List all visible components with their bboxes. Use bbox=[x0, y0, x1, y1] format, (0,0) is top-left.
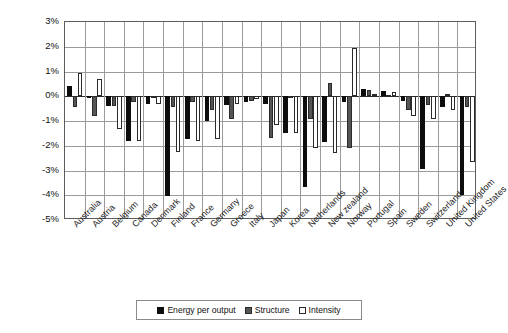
gridline bbox=[65, 47, 475, 48]
gridline-vertical bbox=[320, 22, 321, 218]
bar-i-11 bbox=[294, 96, 299, 133]
legend-label-intensity: Intensity bbox=[309, 305, 341, 315]
y-tick-label: -3% bbox=[19, 164, 59, 175]
bar-i-17 bbox=[411, 96, 416, 116]
bar-e-17 bbox=[401, 96, 406, 100]
bar-e-0 bbox=[67, 86, 72, 96]
bar-i-2 bbox=[117, 96, 122, 129]
bar-e-13 bbox=[322, 96, 327, 142]
bar-i-18 bbox=[431, 96, 436, 118]
legend-swatch-icon-structure bbox=[245, 307, 252, 314]
bar-i-15 bbox=[372, 94, 377, 96]
gridline-vertical bbox=[399, 22, 400, 218]
bar-i-13 bbox=[333, 96, 338, 153]
gridline bbox=[65, 171, 475, 172]
gridline-vertical bbox=[183, 22, 184, 218]
bar-e-15 bbox=[361, 89, 366, 96]
bar-i-20 bbox=[470, 96, 475, 162]
bar-s-20 bbox=[465, 96, 470, 106]
gridline-vertical bbox=[261, 22, 262, 218]
bar-s-0 bbox=[73, 96, 78, 107]
gridline bbox=[65, 195, 475, 196]
bar-e-7 bbox=[205, 96, 210, 121]
bar-s-15 bbox=[367, 90, 372, 96]
bar-s-8 bbox=[229, 96, 234, 118]
gridline-vertical bbox=[85, 22, 86, 218]
bar-e-2 bbox=[106, 96, 111, 106]
bar-i-5 bbox=[176, 96, 181, 152]
bar-e-4 bbox=[146, 96, 151, 103]
y-tick-label: -4% bbox=[19, 188, 59, 199]
bar-s-19 bbox=[445, 94, 450, 96]
bar-e-8 bbox=[224, 96, 229, 105]
gridline-vertical bbox=[124, 22, 125, 218]
bar-e-11 bbox=[283, 96, 288, 133]
gridline-vertical bbox=[143, 22, 144, 218]
gridline-vertical bbox=[202, 22, 203, 218]
y-tick-label: -2% bbox=[19, 139, 59, 150]
y-tick-label: 0% bbox=[19, 89, 59, 100]
bar-i-1 bbox=[97, 79, 102, 96]
gridline-vertical bbox=[438, 22, 439, 218]
bar-i-9 bbox=[254, 96, 259, 98]
bar-s-4 bbox=[151, 96, 156, 98]
bar-i-7 bbox=[215, 96, 220, 139]
bar-e-5 bbox=[165, 96, 170, 196]
legend-label-structure: Structure bbox=[255, 305, 290, 315]
bar-i-4 bbox=[156, 96, 161, 104]
bar-s-11 bbox=[288, 96, 293, 98]
legend-item-energy-per-output: Energy per output bbox=[157, 305, 235, 315]
bar-i-8 bbox=[235, 96, 240, 103]
gridline-vertical bbox=[418, 22, 419, 218]
bar-e-14 bbox=[342, 96, 347, 102]
gridline-vertical bbox=[281, 22, 282, 218]
legend-label-energy: Energy per output bbox=[167, 305, 235, 315]
bar-i-6 bbox=[196, 96, 201, 141]
y-tick-label: -1% bbox=[19, 114, 59, 125]
bar-s-18 bbox=[426, 96, 431, 105]
bar-s-2 bbox=[112, 96, 117, 106]
gridline-vertical bbox=[457, 22, 458, 218]
bar-s-12 bbox=[308, 96, 313, 118]
gridline-vertical bbox=[222, 22, 223, 218]
bar-e-16 bbox=[381, 91, 386, 96]
bar-e-9 bbox=[244, 96, 249, 102]
bar-s-7 bbox=[210, 96, 215, 110]
bar-s-14 bbox=[347, 96, 352, 148]
bar-i-19 bbox=[451, 96, 456, 110]
bar-s-17 bbox=[406, 96, 411, 110]
plot-area bbox=[64, 21, 476, 219]
chart-legend: Energy per output Structure Intensity bbox=[136, 300, 362, 320]
bar-e-3 bbox=[126, 96, 131, 141]
bar-i-3 bbox=[137, 96, 142, 141]
bar-e-20 bbox=[460, 96, 465, 195]
y-tick-label: 1% bbox=[19, 65, 59, 76]
bar-e-12 bbox=[303, 96, 308, 186]
gridline-vertical bbox=[379, 22, 380, 218]
bar-e-19 bbox=[440, 96, 445, 107]
y-tick-label: -5% bbox=[19, 213, 59, 224]
y-tick-label: 3% bbox=[19, 15, 59, 26]
bar-s-3 bbox=[131, 96, 136, 101]
bar-e-6 bbox=[185, 96, 190, 139]
legend-swatch-icon-intensity bbox=[299, 307, 306, 314]
bar-e-10 bbox=[263, 96, 268, 103]
gridline-vertical bbox=[300, 22, 301, 218]
legend-swatch-icon-energy bbox=[157, 307, 164, 314]
bar-s-9 bbox=[249, 96, 254, 100]
gridline bbox=[65, 72, 475, 73]
bar-i-14 bbox=[352, 48, 357, 96]
gridline-vertical bbox=[242, 22, 243, 218]
bar-i-10 bbox=[274, 96, 279, 125]
bar-i-16 bbox=[392, 92, 397, 96]
bar-s-13 bbox=[328, 83, 333, 97]
bar-s-1 bbox=[92, 96, 97, 116]
bar-s-10 bbox=[269, 96, 274, 138]
y-tick-label: 2% bbox=[19, 40, 59, 51]
legend-item-intensity: Intensity bbox=[299, 305, 341, 315]
gridline-vertical bbox=[104, 22, 105, 218]
gridline-vertical bbox=[163, 22, 164, 218]
bar-e-18 bbox=[420, 96, 425, 169]
gridline bbox=[65, 146, 475, 147]
